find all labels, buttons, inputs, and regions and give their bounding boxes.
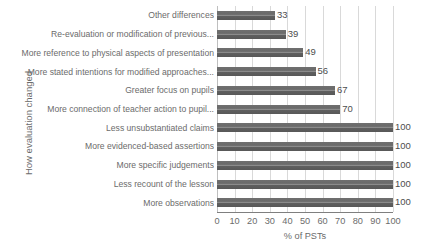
bar — [217, 11, 275, 20]
category-label: Re-evaluation or modification of previou… — [4, 27, 214, 41]
bar-value-label: 33 — [277, 8, 288, 22]
category-label: More connection of teacher action to pup… — [4, 102, 214, 116]
bar-row: 100 — [217, 118, 393, 137]
bar — [217, 86, 335, 95]
bar-row: 39 — [217, 25, 393, 44]
bar — [217, 180, 393, 189]
bar — [217, 30, 286, 39]
bar-value-label: 67 — [337, 83, 348, 97]
category-label: More observations — [4, 196, 214, 210]
bar — [217, 105, 340, 114]
bar — [217, 142, 393, 151]
bar-row: 100 — [217, 193, 393, 212]
x-axis-title: % of PSTs — [217, 231, 393, 241]
category-label: More evidenced-based assertions — [4, 139, 214, 153]
bar-value-label: 100 — [395, 195, 411, 209]
bar-value-label: 49 — [305, 45, 316, 59]
bar-value-label: 100 — [395, 177, 411, 191]
bar-value-label: 56 — [318, 64, 329, 78]
plot-area: 333949566770100100100100100 — [217, 6, 393, 212]
x-axis-line — [217, 212, 393, 213]
bar-row: 67 — [217, 81, 393, 100]
bar-value-label: 100 — [395, 158, 411, 172]
bar-row: 56 — [217, 62, 393, 81]
category-label: Other differences — [4, 8, 214, 22]
category-label: More reference to physical aspects of pr… — [4, 46, 214, 60]
bar-row: 33 — [217, 6, 393, 25]
bar-value-label: 100 — [395, 139, 411, 153]
bar-row: 100 — [217, 156, 393, 175]
category-label: Greater focus on pupils — [4, 83, 214, 97]
category-label: Less recount of the lesson — [4, 177, 214, 191]
bar-value-label: 70 — [342, 102, 353, 116]
y-axis-category-labels: Other differencesRe-evaluation or modifi… — [4, 6, 214, 212]
bar-row: 70 — [217, 100, 393, 119]
x-tick-label: 100 — [380, 215, 406, 227]
bar — [217, 161, 393, 170]
bar-row: 100 — [217, 175, 393, 194]
bar — [217, 123, 393, 132]
category-label: More specific judgements — [4, 158, 214, 172]
bar-row: 49 — [217, 43, 393, 62]
bar — [217, 67, 316, 76]
bar — [217, 48, 303, 57]
gridline-100 — [393, 6, 394, 212]
bar-row: 100 — [217, 137, 393, 156]
bar — [217, 198, 393, 207]
bar-value-label: 100 — [395, 120, 411, 134]
category-label: Less unsubstantiated claims — [4, 121, 214, 135]
category-label: More stated intentions for modified appr… — [4, 65, 214, 79]
bar-chart: How evaluation changed Other differences… — [0, 0, 421, 252]
bar-value-label: 39 — [288, 27, 299, 41]
